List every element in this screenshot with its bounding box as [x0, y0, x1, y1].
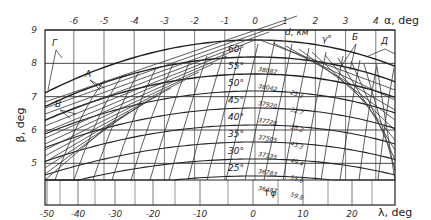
longitude-curve	[302, 52, 326, 180]
alpha-tick-label: 4	[373, 16, 379, 26]
latitude-label: 50°	[228, 78, 244, 88]
latitude-label: 55°	[228, 61, 244, 71]
curves	[45, 16, 395, 180]
latitude-label: 45°	[228, 95, 244, 105]
labels: 56789-6-5-4-3-2-101234-50-40-30-20-10010…	[14, 14, 419, 219]
beta-tick-label: 7	[31, 92, 37, 102]
latitude-label: 30°	[228, 146, 244, 156]
gamma-value: 59.8	[290, 190, 305, 201]
gamma-value: 32.7	[290, 105, 305, 116]
alpha-tick-label: 1	[282, 16, 288, 26]
latitude-label: 40°	[228, 112, 244, 122]
beta-tick-label: 9	[31, 25, 37, 35]
alpha-tick-label: -2	[190, 16, 199, 26]
label-B-leader	[340, 44, 356, 68]
label-V: В	[55, 99, 61, 109]
lambda-tick-label: 10	[297, 209, 309, 219]
alpha-tick-label: -1	[220, 16, 229, 26]
latitude-curve	[45, 176, 395, 180]
lambda-axis-label: λ, deg	[378, 206, 412, 219]
lambda-tick-label: 20	[346, 209, 358, 219]
alpha-tick-label: -4	[130, 16, 139, 26]
latitude-label: 25°	[228, 163, 244, 173]
label-G: Г	[52, 38, 58, 48]
alpha-tick-label: 3	[343, 16, 349, 26]
label-G-leader	[56, 50, 62, 58]
lambda-tick-label: -20	[146, 209, 161, 219]
lambda-tick-label: -50	[40, 209, 55, 219]
beta-tick-label: 5	[31, 158, 37, 168]
alpha-tick-label: 0	[252, 16, 258, 26]
coverage-line	[260, 40, 395, 90]
lambda-tick-label: -40	[71, 209, 86, 219]
coverage-line	[45, 40, 255, 120]
latitude-label: 60°	[228, 44, 244, 54]
alpha-tick-label: -3	[160, 16, 169, 26]
label-B: Б	[352, 32, 358, 42]
beta-tick-label: 6	[31, 125, 37, 135]
gamma-value: 43.3	[290, 139, 305, 150]
label-D-leader	[385, 49, 395, 54]
label-d-km: d, км	[285, 27, 309, 37]
label-gamma: γ°	[322, 34, 332, 44]
alpha-tick-label: -5	[100, 16, 109, 26]
alpha-tick-label: -6	[69, 16, 78, 26]
coverage-line	[45, 72, 199, 144]
label-G-leader	[48, 50, 56, 90]
coverage-line	[45, 48, 241, 126]
lambda-tick-label: -30	[108, 209, 123, 219]
gamma-value: 49.4	[290, 156, 305, 167]
beta-tick-label: 8	[31, 58, 37, 68]
satellite-coverage-diagram: 56789-6-5-4-3-2-101234-50-40-30-20-10010…	[0, 0, 431, 220]
alpha-axis-label: α, deg	[384, 14, 419, 27]
latitude-curve	[45, 142, 395, 175]
lambda-tick-label: 0	[250, 209, 256, 219]
coverage-line	[45, 24, 283, 108]
gamma-value: 23.3	[290, 88, 305, 99]
label-D: Д	[380, 36, 388, 46]
beta-axis-label: β, deg	[14, 108, 27, 143]
lambda-tick-label: -10	[193, 209, 208, 219]
latitude-label: 35°	[228, 129, 244, 139]
alpha-tick-label: 2	[313, 16, 319, 26]
label-phi: ↑φ	[263, 188, 277, 198]
label-A: А	[84, 69, 91, 79]
